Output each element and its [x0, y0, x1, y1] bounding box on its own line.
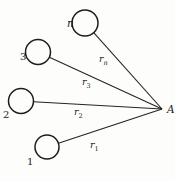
- edge-label-r-n-sub: n: [104, 59, 108, 67]
- edge-label-r-3: r3: [82, 76, 91, 90]
- apex-label-A: A: [166, 103, 175, 115]
- node-label-1: 1: [27, 156, 33, 167]
- edge-label-r-1-sub: 1: [95, 145, 99, 153]
- edge-label-r-2: r2: [74, 106, 83, 120]
- node-label-2: 2: [3, 109, 9, 120]
- diagram-canvas: n 3 2 1 rn r3 r2 r1 A: [0, 0, 175, 182]
- node-label-n: n: [67, 17, 74, 29]
- edge-label-r-1: r1: [90, 139, 99, 153]
- node-circle-3: [26, 40, 51, 65]
- edge-label-r-2-sub: 2: [79, 112, 83, 120]
- edge-label-r-3-sub: 3: [87, 82, 91, 90]
- graph-figure: n 3 2 1 rn r3 r2 r1 A: [0, 0, 175, 182]
- edge-line-2-to-A: [34, 102, 163, 109]
- node-circle-n: [72, 10, 98, 36]
- node-circle-1: [35, 135, 59, 159]
- edge-label-r-n: rn: [99, 53, 108, 67]
- node-label-3: 3: [20, 51, 26, 62]
- node-circle-2: [9, 89, 34, 114]
- edge-line-n-to-A: [94, 33, 162, 109]
